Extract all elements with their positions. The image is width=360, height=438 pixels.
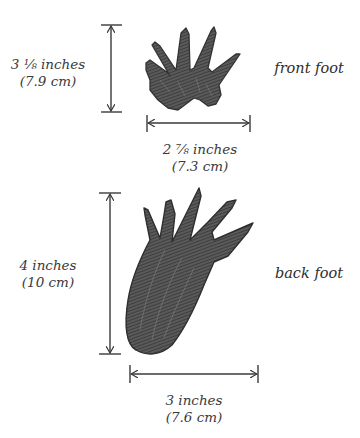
back-foot-height-dimension xyxy=(99,193,121,354)
back-foot-width-cm: (7.6 cm) xyxy=(144,409,244,426)
front-foot-width-dimension xyxy=(147,115,250,132)
front-foot-height-label: 3 ⅛ inches (7.9 cm) xyxy=(2,56,94,90)
front-foot-width-cm: (7.3 cm) xyxy=(150,158,250,175)
front-foot-height-cm: (7.9 cm) xyxy=(2,73,94,90)
back-foot-height-inches: 4 inches xyxy=(8,257,88,274)
back-foot-title: back foot xyxy=(262,265,356,282)
front-foot-width-inches: 2 ⅞ inches xyxy=(150,141,250,158)
front-foot-height-dimension xyxy=(101,25,122,112)
footprint-diagram: 3 ⅛ inches (7.9 cm) front foot 2 ⅞ inche… xyxy=(0,0,360,438)
front-foot-print-icon xyxy=(146,27,240,110)
front-foot-title: front foot xyxy=(262,60,356,77)
front-foot-height-inches: 3 ⅛ inches xyxy=(2,56,94,73)
back-foot-height-cm: (10 cm) xyxy=(8,274,88,291)
back-foot-width-dimension xyxy=(130,365,258,383)
back-foot-print-icon xyxy=(126,188,253,354)
back-foot-height-label: 4 inches (10 cm) xyxy=(8,257,88,291)
back-foot-width-inches: 3 inches xyxy=(144,392,244,409)
back-foot-width-label: 3 inches (7.6 cm) xyxy=(144,392,244,426)
front-foot-width-label: 2 ⅞ inches (7.3 cm) xyxy=(150,141,250,175)
